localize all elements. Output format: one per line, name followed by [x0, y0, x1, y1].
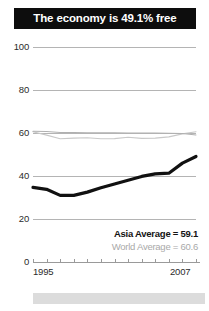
legend-item-asia-average: Asia Average = 59.1	[96, 227, 198, 240]
legend: Asia Average = 59.1 World Average = 60.6	[96, 227, 198, 253]
legend-item-world-average: World Average = 60.6	[96, 240, 198, 253]
series-line-asia-average	[33, 131, 196, 135]
footer-strip	[33, 293, 205, 304]
series-line-country-score	[33, 156, 196, 195]
economic-freedom-line-chart: 100 80 60 40 20 0 1995 2007 Asia Average…	[0, 0, 209, 311]
series-plot	[0, 0, 209, 311]
